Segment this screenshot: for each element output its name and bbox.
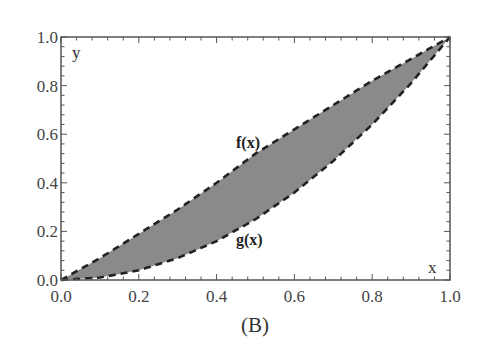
x-tick-label: 0.4 [206, 287, 228, 306]
x-tick-label: 0.2 [128, 287, 149, 306]
x-tick-label: 1.0 [439, 287, 460, 306]
y-tick-label: 0.8 [37, 77, 58, 96]
x-tick-label: 0.6 [284, 287, 305, 306]
y-axis-label: y [72, 43, 81, 62]
y-tick-label: 1.0 [37, 28, 58, 47]
y-tick-label: 0.6 [37, 125, 58, 144]
y-tick-label: 0.0 [37, 271, 58, 290]
figure-caption: (B) [241, 313, 269, 337]
y-tick-label: 0.4 [37, 174, 59, 193]
y-tick-label: 0.2 [37, 222, 58, 241]
x-tick-label: 0.8 [362, 287, 383, 306]
x-axis-label: x [428, 258, 437, 277]
y-tick-labels: 0.00.20.40.60.81.0 [37, 28, 59, 290]
f-curve-label: f(x) [236, 134, 260, 152]
chart: 0.00.20.40.60.81.0 0.00.20.40.60.81.0 y … [0, 0, 479, 356]
x-tick-labels: 0.00.20.40.60.81.0 [50, 287, 460, 306]
g-curve-label: g(x) [236, 231, 263, 249]
